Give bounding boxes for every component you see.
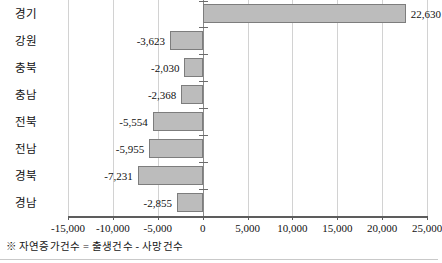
- x-axis-tick: [158, 216, 159, 220]
- x-axis-tick: [382, 216, 383, 220]
- bar: [153, 112, 203, 131]
- bar: [138, 166, 203, 185]
- category-label: 경북: [0, 170, 52, 182]
- x-axis-tick: [113, 216, 114, 220]
- x-axis-tick: [203, 216, 204, 220]
- category-axis: 경기강원충북충남전북전남경북경남: [0, 0, 60, 216]
- category-label: 전북: [0, 116, 52, 128]
- bar: [177, 193, 203, 212]
- gridline: [292, 0, 293, 216]
- category-tick: [199, 81, 208, 82]
- bottom-divider: [0, 259, 438, 260]
- bar: [184, 58, 202, 77]
- bar-value-label: -2,855: [144, 198, 172, 209]
- x-axis-tick-label: 25,000: [412, 222, 442, 234]
- x-axis-tick-label: -10,000: [96, 222, 130, 234]
- bar-value-label: -5,554: [119, 117, 147, 128]
- x-axis-tick: [427, 216, 428, 220]
- x-axis-tick-label: 5,000: [235, 222, 260, 234]
- bar: [170, 31, 203, 50]
- x-axis-tick: [337, 216, 338, 220]
- gridline: [113, 0, 114, 216]
- bar: [181, 85, 202, 104]
- category-tick: [199, 1, 208, 2]
- x-axis-tick-label: 10,000: [277, 222, 307, 234]
- category-label: 충남: [0, 89, 52, 101]
- category-label: 충북: [0, 62, 52, 74]
- bar-value-label: 22,630: [411, 9, 441, 20]
- x-axis-tick-label: -5,000: [144, 222, 172, 234]
- bar: [203, 4, 406, 23]
- chart-footnote: ※ 자연증가건수 = 출생건수 - 사망건수: [6, 240, 183, 253]
- gridline: [248, 0, 249, 216]
- bar-value-label: -2,368: [148, 90, 176, 101]
- category-tick: [199, 27, 208, 28]
- bar-value-label: -2,030: [151, 63, 179, 74]
- gridline: [382, 0, 383, 216]
- category-tick: [199, 162, 208, 163]
- bar-value-label: -3,623: [137, 36, 165, 47]
- x-axis-tick: [292, 216, 293, 220]
- category-label: 경남: [0, 197, 52, 209]
- bar-value-label: -7,231: [104, 171, 132, 182]
- gridline: [337, 0, 338, 216]
- x-axis-tick-label: 0: [200, 222, 206, 234]
- x-axis-tick: [248, 216, 249, 220]
- category-label: 강원: [0, 35, 52, 47]
- x-axis-tick-label: -15,000: [51, 222, 85, 234]
- x-axis-tick-label: 15,000: [322, 222, 352, 234]
- category-tick: [199, 135, 208, 136]
- category-label: 경기: [0, 8, 52, 20]
- category-tick: [199, 54, 208, 55]
- category-tick: [199, 108, 208, 109]
- category-label: 전남: [0, 143, 52, 155]
- bar-value-label: -5,955: [116, 144, 144, 155]
- category-tick: [199, 189, 208, 190]
- x-axis-tick: [68, 216, 69, 220]
- bar: [149, 139, 202, 158]
- x-axis-tick-label: 20,000: [367, 222, 397, 234]
- gridline: [427, 0, 428, 216]
- gridline: [68, 0, 69, 216]
- plot-area: 22,630-3,623-2,030-2,368-5,554-5,955-7,2…: [68, 0, 427, 216]
